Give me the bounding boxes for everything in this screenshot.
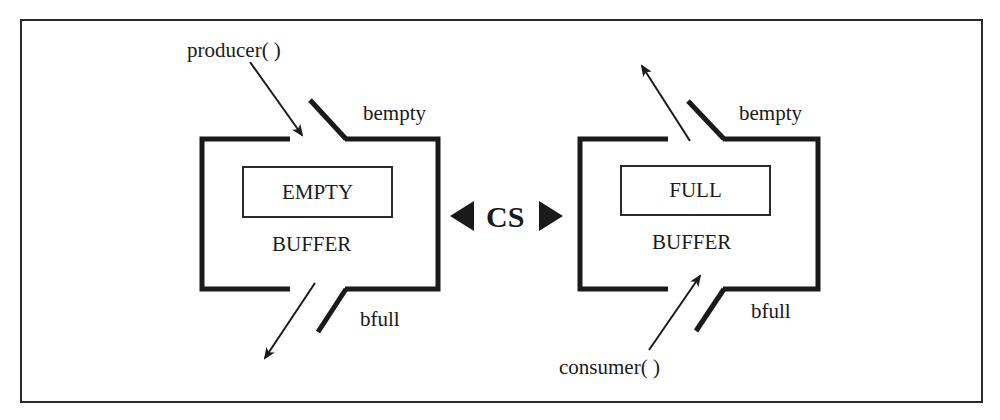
right-bempty-flap bbox=[688, 101, 724, 139]
left-bempty-flap bbox=[310, 100, 346, 139]
producer-label: producer( ) bbox=[187, 40, 281, 61]
cs-right-triangle-icon bbox=[539, 201, 563, 231]
right-out-arrow-icon bbox=[642, 66, 690, 141]
left-bfull-label: bfull bbox=[360, 309, 400, 330]
right-bfull-label: bfull bbox=[751, 301, 791, 322]
producer-arrow-icon bbox=[250, 62, 302, 135]
left-out-arrow-icon bbox=[265, 283, 315, 358]
right-buffer-label: BUFFER bbox=[652, 232, 731, 253]
right-bfull-flap bbox=[696, 289, 724, 331]
left-buffer-label: BUFFER bbox=[272, 234, 351, 255]
right-state-box: FULL bbox=[620, 165, 771, 216]
right-bempty-label: bempty bbox=[739, 103, 802, 124]
left-state-box: EMPTY bbox=[242, 166, 393, 218]
cs-left-triangle-icon bbox=[450, 201, 474, 231]
left-bfull-flap bbox=[318, 289, 346, 332]
critical-section-label: CS bbox=[486, 202, 524, 232]
left-bempty-label: bempty bbox=[363, 103, 426, 124]
consumer-label: consumer( ) bbox=[559, 357, 660, 378]
